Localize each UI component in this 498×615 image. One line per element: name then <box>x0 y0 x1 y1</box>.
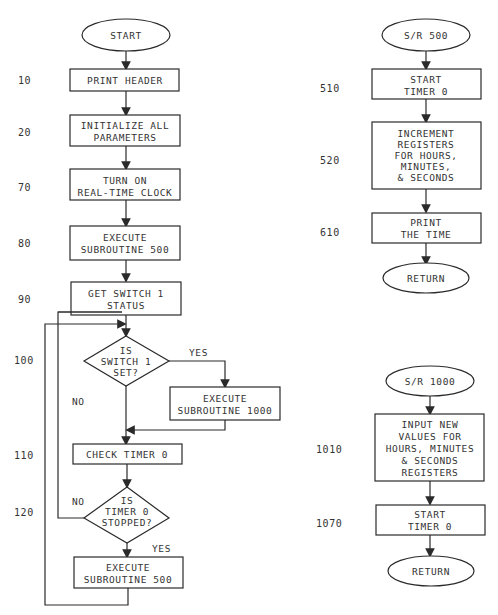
line-number-1010: 1010 <box>316 444 342 455</box>
svg-text:IS: IS <box>121 495 134 506</box>
svg-text:PRINT: PRINT <box>410 217 442 228</box>
line-number-110: 110 <box>14 450 34 461</box>
svg-text:VALUES FOR: VALUES FOR <box>398 431 461 442</box>
svg-text:TIMER 0: TIMER 0 <box>105 506 149 517</box>
svg-text:INCREMENT: INCREMENT <box>398 128 455 139</box>
svg-text:RETURN: RETURN <box>407 273 445 284</box>
svg-text:SUBROUTINE 500: SUBROUTINE 500 <box>81 244 169 255</box>
svg-text:REGISTERS: REGISTERS <box>402 467 459 478</box>
svg-text:INPUT NEW: INPUT NEW <box>402 419 459 430</box>
svg-text:STATUS: STATUS <box>107 300 145 311</box>
svg-text:& SECONDS: & SECONDS <box>402 455 459 466</box>
svg-text:SUBROUTINE 500: SUBROUTINE 500 <box>84 574 172 585</box>
main-flow: START 10 PRINT HEADER 20 INITIALIZE ALL … <box>14 19 280 605</box>
subroutine-1000-flow: S/R 1000 1010 INPUT NEW VALUES FOR HOURS… <box>316 366 485 586</box>
svg-text:SUBROUTINE 1000: SUBROUTINE 1000 <box>178 405 273 416</box>
no-label-timer: NO <box>72 496 85 507</box>
line-number-520: 520 <box>320 155 340 166</box>
line-number-80: 80 <box>18 238 31 249</box>
svg-text:HOURS, MINUTES: HOURS, MINUTES <box>386 443 474 454</box>
svg-text:REAL-TIME CLOCK: REAL-TIME CLOCK <box>78 187 173 198</box>
start-label: START <box>110 30 142 41</box>
subroutine-500-flow: S/R 500 510 START TIMER 0 520 INCREMENT … <box>320 19 481 293</box>
svg-text:INITIALIZE ALL: INITIALIZE ALL <box>81 120 169 131</box>
svg-text:START: START <box>410 74 442 85</box>
svg-text:RETURN: RETURN <box>412 566 450 577</box>
svg-text:TIMER 0: TIMER 0 <box>408 521 452 532</box>
line-number-20: 20 <box>18 127 31 138</box>
svg-text:PRINT HEADER: PRINT HEADER <box>87 75 163 86</box>
line-number-510: 510 <box>320 83 340 94</box>
svg-text:TURN ON: TURN ON <box>103 175 147 186</box>
svg-text:EXECUTE: EXECUTE <box>106 562 150 573</box>
svg-text:EXECUTE: EXECUTE <box>103 232 147 243</box>
svg-text:STOPPED?: STOPPED? <box>102 517 153 528</box>
svg-text:MINUTES,: MINUTES, <box>401 161 452 172</box>
line-number-120: 120 <box>14 507 34 518</box>
svg-text:S/R 1000: S/R 1000 <box>405 376 456 387</box>
svg-text:TIMER 0: TIMER 0 <box>404 86 448 97</box>
line-number-610: 610 <box>320 227 340 238</box>
svg-text:IS: IS <box>120 345 133 356</box>
svg-text:START: START <box>414 509 446 520</box>
svg-text:PARAMETERS: PARAMETERS <box>93 132 156 143</box>
yes-label-timer: YES <box>152 543 171 554</box>
line-number-90: 90 <box>18 294 31 305</box>
no-label-switch: NO <box>72 396 85 407</box>
line-number-10: 10 <box>18 75 31 86</box>
svg-text:REGISTERS: REGISTERS <box>398 139 455 150</box>
line-number-100: 100 <box>14 355 34 366</box>
line-number-70: 70 <box>18 182 31 193</box>
svg-text:SET?: SET? <box>113 367 138 378</box>
svg-text:S/R 500: S/R 500 <box>404 30 448 41</box>
svg-text:GET SWITCH 1: GET SWITCH 1 <box>88 288 164 299</box>
svg-text:SWITCH 1: SWITCH 1 <box>101 356 152 367</box>
svg-text:EXECUTE: EXECUTE <box>203 393 247 404</box>
line-number-1070: 1070 <box>316 518 342 529</box>
yes-label-switch: YES <box>189 347 208 358</box>
svg-text:& SECONDS: & SECONDS <box>398 172 455 183</box>
svg-text:FOR HOURS,: FOR HOURS, <box>394 150 457 161</box>
svg-text:THE TIME: THE TIME <box>401 229 452 240</box>
svg-text:CHECK TIMER 0: CHECK TIMER 0 <box>86 449 168 460</box>
flowchart-canvas: START 10 PRINT HEADER 20 INITIALIZE ALL … <box>0 0 498 615</box>
